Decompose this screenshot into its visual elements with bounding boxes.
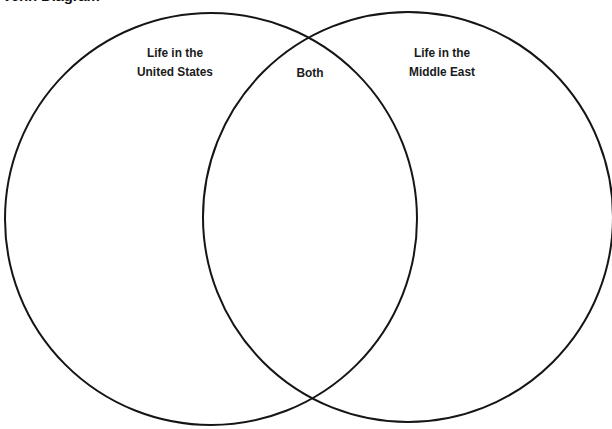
label-both-text: Both (296, 63, 323, 82)
label-united-states-line-2: United States (137, 62, 213, 81)
label-united-states-line-1: Life in the (137, 43, 213, 62)
label-middle-east-line-1: Life in the (409, 43, 475, 62)
label-middle-east-line-2: Middle East (409, 62, 475, 81)
label-middle-east: Life in the Middle East (409, 43, 475, 81)
label-united-states: Life in the United States (137, 43, 213, 81)
circle-middle-east (203, 12, 612, 422)
label-both: Both (296, 63, 323, 82)
